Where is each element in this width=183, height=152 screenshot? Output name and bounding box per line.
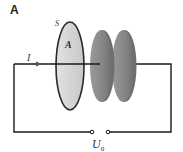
panel-label: A [10,3,19,17]
terminal-left [90,130,94,134]
voltage-subscript: 0 [101,145,105,152]
capacitor-plate-2 [112,30,134,102]
voltage-label: U0 [92,137,105,152]
loop-surface [56,22,84,110]
capacitor-plate-1 [90,30,112,102]
area-label: A [64,39,72,50]
terminal-right [106,130,110,134]
capacitor-circuit-diagram: A I S A U0 [0,0,183,152]
current-arrow-icon [36,62,42,67]
current-label: I [26,52,31,63]
loop-label: S [55,19,59,28]
